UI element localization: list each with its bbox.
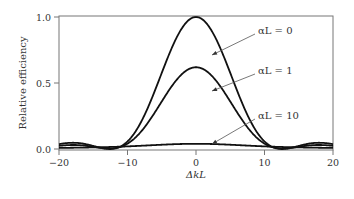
x-tick-label: 20 — [327, 157, 339, 168]
curve-annotations: αL = 0αL = 1αL = 10 — [212, 25, 299, 144]
y-axis-label: Relative efficiency — [17, 36, 28, 130]
curve-alphaL-0 — [59, 17, 333, 149]
x-tick-label: −20 — [49, 157, 69, 168]
x-tick-label: 10 — [258, 157, 270, 168]
annotation-label: αL = 1 — [258, 65, 293, 76]
y-axis-ticks: 0.00.51.0 — [36, 12, 59, 155]
y-tick-label: 0.5 — [36, 78, 51, 89]
y-tick-label: 1.0 — [36, 12, 51, 23]
efficiency-curves — [59, 17, 333, 149]
curve-alphaL-1 — [59, 67, 333, 148]
x-tick-label: 0 — [193, 157, 199, 168]
annotation-label: αL = 10 — [258, 110, 299, 121]
arrowhead-icon — [212, 87, 217, 91]
x-tick-label: −10 — [117, 157, 137, 168]
annotation-label: αL = 0 — [258, 25, 293, 36]
x-axis-label: ΔkL — [185, 169, 206, 180]
arrowhead-icon — [212, 51, 217, 55]
y-tick-label: 0.0 — [36, 144, 51, 155]
annotation-arrow — [212, 119, 255, 144]
relative-efficiency-chart: −20−1001020 0.00.51.0 αL = 0αL = 1αL = 1… — [0, 0, 354, 199]
x-axis-ticks: −20−1001020 — [49, 150, 339, 168]
curve-alphaL-10 — [59, 144, 333, 148]
plot-frame — [59, 16, 333, 150]
